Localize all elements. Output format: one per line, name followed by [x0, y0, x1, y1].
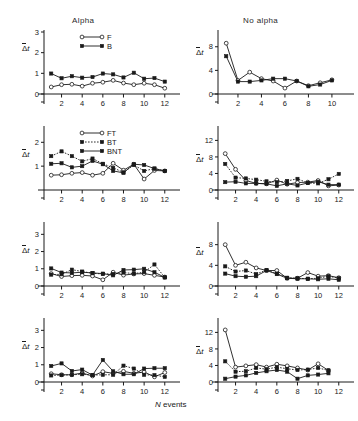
svg-text:12: 12	[335, 195, 343, 204]
svg-text:8: 8	[209, 42, 213, 51]
svg-text:2: 2	[233, 291, 237, 300]
t-symbol: t	[27, 150, 29, 159]
svg-text:10: 10	[140, 195, 148, 204]
svg-text:2: 2	[233, 387, 237, 396]
svg-text:0: 0	[209, 282, 213, 291]
chart-alpha-row3: 012324681012	[24, 216, 190, 308]
svg-text:1: 1	[35, 264, 39, 273]
ylabel-alpha-row4: Δt	[22, 342, 30, 351]
svg-text:6: 6	[275, 387, 279, 396]
svg-text:2: 2	[35, 138, 39, 147]
svg-text:6: 6	[283, 99, 287, 108]
svg-text:6: 6	[101, 387, 105, 396]
svg-text:4: 4	[209, 66, 213, 75]
panel-noalpha-row1: 048246810	[198, 24, 358, 116]
svg-text:4: 4	[259, 99, 263, 108]
t-symbol: t	[201, 347, 203, 356]
svg-text:4: 4	[209, 261, 213, 270]
svg-text:6: 6	[101, 195, 105, 204]
svg-text:12: 12	[161, 99, 169, 108]
svg-text:12: 12	[205, 136, 213, 145]
svg-text:3: 3	[35, 326, 39, 335]
svg-text:4: 4	[80, 195, 84, 204]
svg-text:6: 6	[101, 291, 105, 300]
svg-text:2: 2	[35, 48, 39, 57]
panel-noalpha-row3: 04824681012	[198, 216, 358, 308]
svg-text:10: 10	[314, 291, 322, 300]
svg-text:12: 12	[161, 387, 169, 396]
svg-text:12: 12	[161, 291, 169, 300]
svg-text:4: 4	[80, 291, 84, 300]
svg-text:12: 12	[205, 328, 213, 337]
svg-text:10: 10	[314, 195, 322, 204]
svg-text:4: 4	[80, 99, 84, 108]
t-symbol: t	[201, 48, 203, 57]
svg-text:12: 12	[335, 387, 343, 396]
t-symbol: t	[201, 155, 203, 164]
svg-text:4: 4	[254, 291, 258, 300]
svg-text:8: 8	[121, 387, 125, 396]
svg-text:1: 1	[35, 162, 39, 171]
delta-bar-symbol: Δ	[22, 150, 27, 159]
delta-bar-symbol: Δ	[22, 44, 27, 53]
svg-text:F: F	[107, 33, 112, 42]
svg-text:2: 2	[35, 343, 39, 352]
chart-noalpha-row4: 0481224681012	[198, 312, 358, 404]
svg-text:3: 3	[35, 28, 39, 37]
svg-text:6: 6	[101, 99, 105, 108]
delta-bar-symbol: Δ	[196, 48, 201, 57]
svg-text:10: 10	[328, 99, 336, 108]
panel-alpha-row3: 012324681012	[24, 216, 190, 308]
delta-bar-symbol: Δ	[196, 155, 201, 164]
ylabel-alpha-row1: Δt	[22, 44, 30, 53]
ylabel-noalpha-row4: Δt	[196, 347, 204, 356]
svg-text:6: 6	[275, 291, 279, 300]
svg-text:4: 4	[209, 361, 213, 370]
svg-text:8: 8	[121, 195, 125, 204]
svg-text:12: 12	[161, 195, 169, 204]
svg-text:2: 2	[59, 99, 63, 108]
svg-text:2: 2	[59, 291, 63, 300]
chart-noalpha-row3: 04824681012	[198, 216, 358, 308]
ylabel-noalpha-row1: Δt	[196, 48, 204, 57]
delta-bar-symbol: Δ	[196, 347, 201, 356]
xaxis-title-text: events	[161, 400, 187, 409]
t-symbol: t	[201, 248, 203, 257]
svg-text:FT: FT	[107, 129, 117, 138]
panel-alpha-row1: 012324681012FB	[24, 24, 190, 116]
svg-text:2: 2	[35, 247, 39, 256]
svg-text:2: 2	[59, 387, 63, 396]
svg-text:8: 8	[209, 345, 213, 354]
delta-bar-symbol: Δ	[22, 342, 27, 351]
svg-text:8: 8	[121, 99, 125, 108]
svg-text:0: 0	[209, 90, 213, 99]
svg-text:0: 0	[35, 90, 39, 99]
svg-text:8: 8	[306, 99, 310, 108]
ylabel-alpha-row2: Δt	[22, 150, 30, 159]
svg-text:4: 4	[254, 195, 258, 204]
panel-noalpha-row4: 0481224681012	[198, 312, 358, 404]
svg-text:4: 4	[209, 169, 213, 178]
svg-text:0: 0	[209, 378, 213, 387]
xaxis-title: N events	[155, 400, 187, 409]
delta-bar-symbol: Δ	[196, 248, 201, 257]
figure-root: Alpha No alpha 012324681012FB 1224681012…	[0, 0, 358, 421]
svg-text:2: 2	[236, 99, 240, 108]
ylabel-noalpha-row3: Δt	[196, 248, 204, 257]
svg-text:4: 4	[80, 387, 84, 396]
svg-text:10: 10	[140, 99, 148, 108]
svg-text:1: 1	[35, 69, 39, 78]
svg-text:3: 3	[35, 230, 39, 239]
svg-text:0: 0	[35, 378, 39, 387]
svg-text:0: 0	[35, 282, 39, 291]
panel-noalpha-row2: 0481224681012	[198, 120, 358, 212]
t-symbol: t	[27, 342, 29, 351]
panel-alpha-row2: 1224681012FTBTBNT	[24, 120, 190, 212]
svg-text:4: 4	[254, 387, 258, 396]
svg-text:12: 12	[335, 291, 343, 300]
svg-text:10: 10	[140, 387, 148, 396]
svg-text:6: 6	[275, 195, 279, 204]
chart-noalpha-row2: 0481224681012	[198, 120, 358, 212]
svg-text:8: 8	[295, 387, 299, 396]
svg-text:8: 8	[121, 291, 125, 300]
